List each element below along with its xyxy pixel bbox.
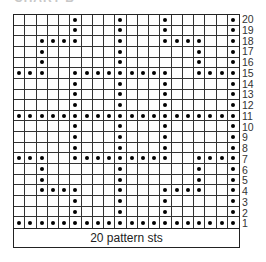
chart-cell <box>25 153 36 164</box>
chart-cell <box>183 100 194 111</box>
chart-cell <box>70 47 81 58</box>
dot-icon <box>186 39 190 43</box>
chart-cell <box>48 217 59 228</box>
chart-cell <box>37 90 48 101</box>
dot-icon <box>141 114 145 118</box>
dot-icon <box>197 71 201 75</box>
dot-icon <box>130 221 134 225</box>
dot-icon <box>107 156 111 160</box>
chart-cell <box>149 217 160 228</box>
chart-cell <box>172 90 183 101</box>
chart-cell <box>228 90 239 101</box>
chart-cell <box>205 121 216 132</box>
dot-icon <box>163 188 167 192</box>
dot-icon <box>231 60 235 64</box>
chart-cell <box>228 185 239 196</box>
chart-cell <box>149 58 160 69</box>
dot-icon <box>96 221 100 225</box>
chart-cell <box>183 79 194 90</box>
dot-icon <box>163 210 167 214</box>
chart-cell <box>228 15 239 26</box>
chart-cell <box>59 185 70 196</box>
dot-icon <box>152 114 156 118</box>
chart-cell <box>138 68 149 79</box>
dot-icon <box>118 60 122 64</box>
dot-icon <box>73 82 77 86</box>
dot-icon <box>118 28 122 32</box>
chart-cell <box>104 175 115 186</box>
chart-cell <box>93 217 104 228</box>
chart-cell <box>172 153 183 164</box>
chart-cell <box>82 185 93 196</box>
chart-cell <box>138 15 149 26</box>
chart-cell <box>115 143 126 154</box>
dot-icon <box>231 114 235 118</box>
dot-icon <box>96 156 100 160</box>
chart-cell <box>115 164 126 175</box>
chart-cell <box>59 175 70 186</box>
chart-cell <box>127 132 138 143</box>
chart-cell <box>127 58 138 69</box>
dot-icon <box>28 71 32 75</box>
chart-cell <box>160 26 171 37</box>
chart-cell <box>70 111 81 122</box>
dot-icon <box>231 156 235 160</box>
chart-cell <box>138 217 149 228</box>
chart-cell <box>115 175 126 186</box>
dot-icon <box>40 114 44 118</box>
dot-icon <box>231 50 235 54</box>
chart-cell <box>228 121 239 132</box>
dot-icon <box>73 114 77 118</box>
dot-icon <box>163 82 167 86</box>
chart-cell <box>194 79 205 90</box>
row-numbers: 2019181716151413121110987654321 <box>242 14 264 229</box>
chart-cell <box>205 175 216 186</box>
chart-cell <box>48 121 59 132</box>
chart-cell <box>104 207 115 218</box>
chart-cell <box>14 36 25 47</box>
chart-cell <box>127 196 138 207</box>
chart-cell <box>25 100 36 111</box>
chart-cell <box>138 36 149 47</box>
chart-cell <box>149 68 160 79</box>
chart-cell <box>138 185 149 196</box>
chart-cell <box>217 68 228 79</box>
chart-cell <box>115 185 126 196</box>
chart-cell <box>48 90 59 101</box>
dot-icon <box>85 156 89 160</box>
chart-cell <box>93 79 104 90</box>
dot-icon <box>17 221 21 225</box>
dot-icon <box>28 114 32 118</box>
chart-cell <box>37 196 48 207</box>
chart-cell <box>138 90 149 101</box>
chart-cell <box>172 132 183 143</box>
chart-cell <box>160 196 171 207</box>
chart-cell <box>149 207 160 218</box>
chart-cell <box>37 58 48 69</box>
chart-cell <box>25 90 36 101</box>
chart-cell <box>127 207 138 218</box>
chart-cell <box>14 164 25 175</box>
dot-icon <box>73 103 77 107</box>
chart-cell <box>217 111 228 122</box>
chart-cell <box>37 132 48 143</box>
chart-cell <box>217 153 228 164</box>
chart-cell <box>183 121 194 132</box>
chart-cell <box>25 79 36 90</box>
chart-cell <box>82 15 93 26</box>
chart-cell <box>160 121 171 132</box>
dot-icon <box>118 135 122 139</box>
dot-icon <box>130 156 134 160</box>
chart-cell <box>183 164 194 175</box>
chart-cell <box>48 47 59 58</box>
chart-cell <box>59 58 70 69</box>
chart-cell <box>160 111 171 122</box>
chart-cell <box>82 111 93 122</box>
chart-cell <box>205 185 216 196</box>
dot-icon <box>163 135 167 139</box>
chart-cell <box>93 207 104 218</box>
chart-cell <box>37 111 48 122</box>
chart-cell <box>138 207 149 218</box>
chart-cell <box>138 175 149 186</box>
chart-cell <box>93 153 104 164</box>
